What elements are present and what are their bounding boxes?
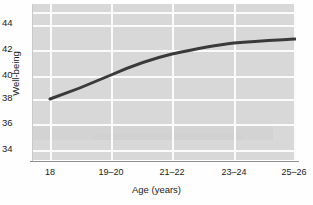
y-axis-title: Well-being xyxy=(10,29,21,119)
x-axis-tick-label: 19–20 xyxy=(98,167,123,177)
y-axis-tick-label: 44 xyxy=(2,17,13,28)
x-axis-tick-label: 18 xyxy=(45,167,55,177)
well-being-by-age-chart: 444240383634 1819–2021–2223–2425–26 Well… xyxy=(0,0,313,205)
x-axis-tick-label: 21–22 xyxy=(159,167,184,177)
y-axis-tick-label: 34 xyxy=(2,143,13,154)
well-being-line-series xyxy=(33,4,296,160)
y-axis-tick-label: 36 xyxy=(2,117,13,128)
x-axis-tick-label: 23–24 xyxy=(221,167,246,177)
x-axis-title: Age (years) xyxy=(0,184,313,195)
x-axis-tick-label: 25–26 xyxy=(281,167,306,177)
y-axis-line xyxy=(32,4,33,161)
x-axis-line xyxy=(30,161,299,162)
plot-area xyxy=(33,4,296,160)
series-line-path xyxy=(50,39,295,99)
